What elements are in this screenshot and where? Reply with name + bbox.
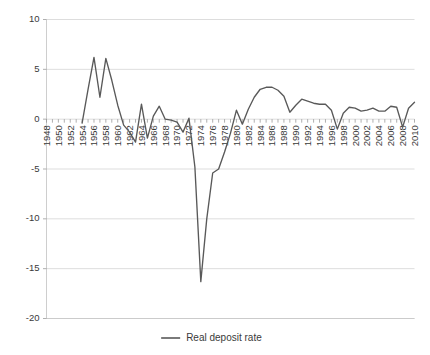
data-series-group (82, 57, 414, 281)
real-deposit-rate-chart: 1050-5-10-15-20 194819501952195419561958… (0, 0, 430, 355)
x-axis-tickmarks (47, 119, 415, 123)
x-tick-label-1958: 1958 (100, 125, 111, 146)
x-tick-label-2002: 2002 (361, 125, 372, 146)
x-tick-label-1988: 1988 (278, 125, 289, 146)
x-tick-label-1996: 1996 (326, 125, 337, 146)
legend: Real deposit rate (161, 332, 262, 343)
y-tick-label--15: -15 (26, 262, 40, 273)
x-tick-label-1984: 1984 (255, 125, 266, 146)
x-tick-label-1986: 1986 (266, 125, 277, 146)
x-tick-label-1968: 1968 (160, 125, 171, 146)
y-tick-label-5: 5 (34, 63, 39, 74)
gridlines (47, 20, 415, 319)
y-axis-tick-labels: 1050-5-10-15-20 (26, 13, 47, 323)
x-tick-label-1994: 1994 (314, 125, 325, 146)
x-tick-label-1990: 1990 (290, 125, 301, 146)
x-tick-label-1978: 1978 (219, 125, 230, 146)
x-tick-label-2004: 2004 (373, 125, 384, 146)
x-tick-label-2008: 2008 (397, 125, 408, 146)
x-tick-label-1948: 1948 (41, 125, 52, 146)
legend-label-real-deposit-rate: Real deposit rate (186, 332, 262, 343)
x-tick-label-1974: 1974 (195, 125, 206, 146)
y-tick-label--5: -5 (31, 163, 39, 174)
x-tick-label-2006: 2006 (385, 125, 396, 146)
x-tick-label-1976: 1976 (207, 125, 218, 146)
x-tick-label-1998: 1998 (338, 125, 349, 146)
x-tick-label-1960: 1960 (112, 125, 123, 146)
y-tick-label-10: 10 (29, 13, 40, 24)
x-tick-label-1982: 1982 (243, 125, 254, 146)
y-tick-label--20: -20 (26, 312, 40, 323)
chart-canvas: 1050-5-10-15-20 194819501952195419561958… (0, 0, 430, 355)
x-tick-label-1992: 1992 (302, 125, 313, 146)
y-tick-label-0: 0 (34, 113, 39, 124)
x-tick-label-1954: 1954 (77, 125, 88, 146)
x-tick-label-1950: 1950 (53, 125, 64, 146)
x-tick-label-1952: 1952 (65, 125, 76, 146)
x-tick-label-1980: 1980 (231, 125, 242, 146)
x-tick-label-2010: 2010 (409, 125, 420, 146)
y-tick-label--10: -10 (26, 212, 40, 223)
series-line-0 (82, 57, 414, 281)
x-axis-tick-labels: 1948195019521954195619581960196219641966… (41, 125, 420, 146)
x-tick-label-2000: 2000 (350, 125, 361, 146)
x-tick-label-1956: 1956 (88, 125, 99, 146)
